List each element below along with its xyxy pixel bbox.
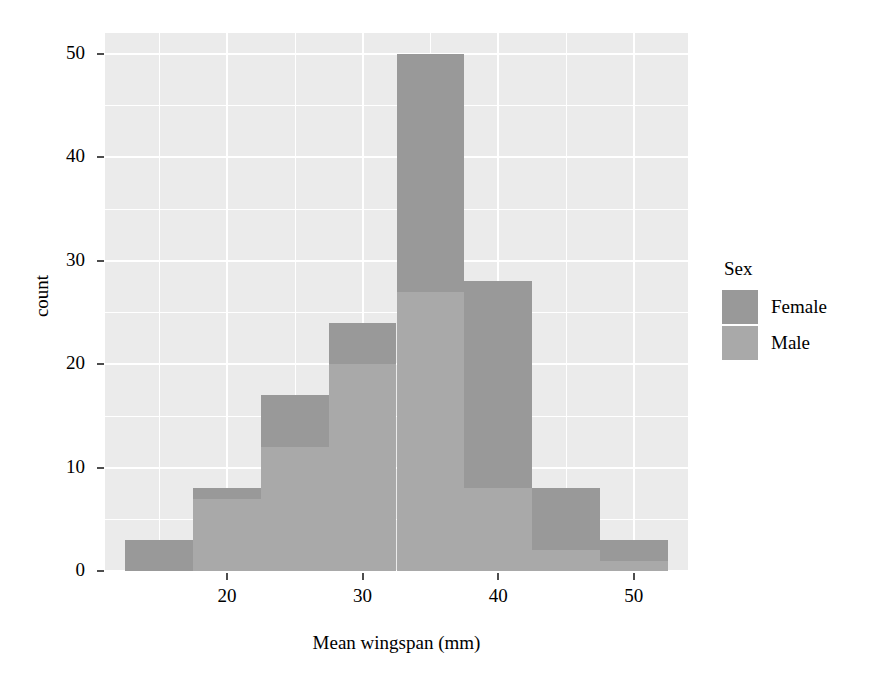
y-tick-label: 40 [25,145,85,167]
y-tick-mark [97,53,104,55]
y-tick-mark [97,570,104,572]
bar-stack [464,281,532,571]
bar-segment-female [125,540,193,571]
bar-segment-male [532,550,600,571]
x-axis-label: Mean wingspan (mm) [105,632,688,654]
bar-stack [193,488,261,571]
y-tick-mark [97,363,104,365]
bar-segment-female [464,281,532,488]
legend: Sex FemaleMale [722,258,872,361]
legend-item[interactable]: Female [722,289,872,325]
x-tick-label: 30 [333,585,393,607]
bar-segment-male [193,499,261,571]
x-tick-mark [497,573,499,580]
y-tick-mark [97,467,104,469]
x-tick-label: 50 [604,585,664,607]
y-tick-label: 50 [25,42,85,64]
chart-page: 01020304050 count 20304050 Mean wingspan… [0,0,877,688]
bar-stack [532,488,600,571]
histogram-bars [105,33,688,571]
x-tick-mark [633,573,635,580]
bar-segment-female [397,54,465,292]
bar-segment-female [193,488,261,498]
bar-stack [261,395,329,571]
legend-items: FemaleMale [722,289,872,361]
y-tick-mark [97,156,104,158]
bar-stack [329,323,397,571]
bar-stack [125,540,193,571]
legend-key-swatch [722,290,758,324]
legend-item[interactable]: Male [722,325,872,361]
legend-title: Sex [724,258,872,280]
x-tick-label: 40 [468,585,528,607]
y-tick-label: 10 [25,456,85,478]
y-axis-label: count [31,236,53,356]
legend-item-label: Male [771,332,810,354]
bar-segment-male [600,561,668,571]
x-tick-mark [226,573,228,580]
bar-segment-female [329,323,397,364]
legend-key-swatch [722,326,758,360]
legend-item-label: Female [771,296,827,318]
y-tick-label: 0 [25,559,85,581]
bar-segment-female [261,395,329,447]
x-tick-label: 20 [197,585,257,607]
bar-segment-male [464,488,532,571]
plot-panel [105,33,688,571]
bar-stack [600,540,668,571]
bar-segment-female [600,540,668,561]
bar-stack [397,54,465,571]
bar-segment-male [261,447,329,571]
y-tick-mark [97,260,104,262]
bar-segment-male [329,364,397,571]
bar-segment-male [397,292,465,571]
bar-segment-female [532,488,600,550]
x-tick-mark [362,573,364,580]
